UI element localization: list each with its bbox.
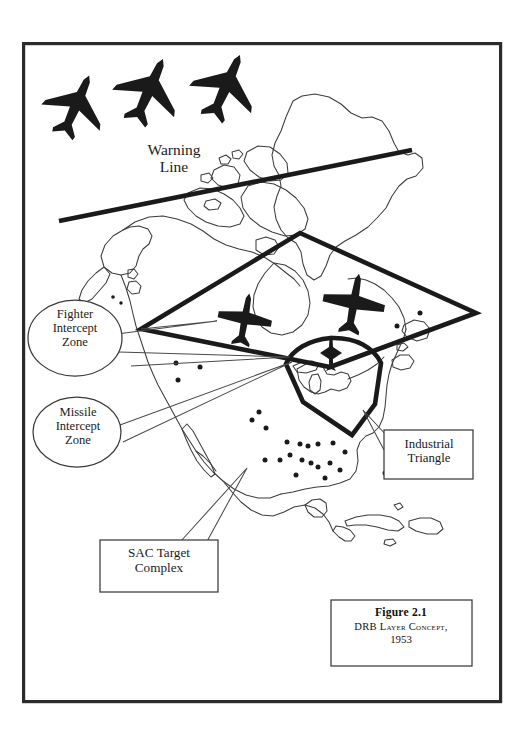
bomber-aircraft-icon — [180, 41, 270, 133]
prince-edward-island-outline — [397, 343, 408, 351]
target-dot-icon — [263, 458, 268, 463]
hispaniola-outline — [409, 518, 443, 534]
figure-caption: Figure 2.1 DRB Layer Concept, 1953 — [331, 606, 471, 645]
bahamas-outline — [394, 503, 403, 510]
aleutian-island-dot — [111, 295, 115, 299]
alaska-peninsula-outline — [79, 267, 110, 303]
target-dot-icon — [306, 444, 311, 449]
target-dot-icon — [257, 410, 262, 415]
aleutian-island-dot — [119, 301, 122, 304]
warning-line-path — [59, 150, 412, 221]
vancouver-island-outline — [127, 281, 141, 294]
central-america-outline — [333, 526, 355, 541]
target-dot-icon — [300, 458, 305, 463]
bomber-aircraft-icon — [103, 45, 193, 137]
target-dot-icon — [298, 442, 303, 447]
pacific-west-coast — [121, 275, 281, 498]
melville-island-outline — [204, 199, 221, 210]
target-dot-icon — [264, 426, 269, 431]
sac-target-leader — [181, 468, 247, 545]
jamaica-outline — [384, 539, 396, 546]
cuba-outline — [345, 515, 404, 531]
target-dot-icon — [250, 418, 255, 423]
sac-target-callout-box[interactable] — [100, 540, 218, 592]
missile-zone-callout-ellipse[interactable] — [33, 397, 121, 467]
target-dot-icon — [316, 442, 321, 447]
figure-caption-number: Figure 2.1 — [331, 606, 471, 619]
target-dot-icon — [176, 378, 181, 383]
target-dot-icon — [343, 450, 348, 455]
figure-caption-title: DRB Layer Concept, — [331, 621, 471, 632]
target-dot-icon — [331, 441, 336, 446]
small-arctic-island-b — [232, 150, 243, 159]
target-dot-icon — [309, 461, 314, 466]
target-dot-icon — [198, 365, 203, 370]
target-dot-icon — [285, 440, 290, 445]
yucatan-outline — [305, 499, 327, 517]
interceptor-aircraft-icon — [214, 289, 276, 351]
small-arctic-island-a — [219, 155, 231, 164]
target-dot-icon — [294, 473, 299, 478]
alaska-outline — [101, 226, 152, 275]
industrial-triangle-callout-box[interactable] — [384, 430, 473, 479]
target-dot-icon — [418, 311, 423, 316]
bomber-aircraft-icon — [33, 63, 118, 149]
target-dot-icon — [278, 458, 283, 463]
interceptor-aircraft-icon — [318, 268, 390, 339]
target-dot-icon — [338, 468, 343, 473]
figure-caption-year: 1953 — [331, 633, 471, 645]
mexico-south-coast — [223, 481, 333, 531]
target-dot-icon — [288, 453, 293, 458]
target-dot-icon — [328, 461, 333, 466]
target-dot-icon — [323, 476, 328, 481]
queen-charlotte-outline — [128, 269, 138, 279]
target-dot-icon — [316, 465, 321, 470]
fighter-intercept-zone-polygon — [141, 233, 476, 367]
lake-michigan-outline — [309, 374, 321, 394]
fighter-zone-callout-ellipse[interactable] — [28, 300, 122, 376]
target-dot-icon — [395, 324, 400, 329]
figure-container: Warning Line Fighter Intercept Zone Miss… — [0, 0, 527, 741]
